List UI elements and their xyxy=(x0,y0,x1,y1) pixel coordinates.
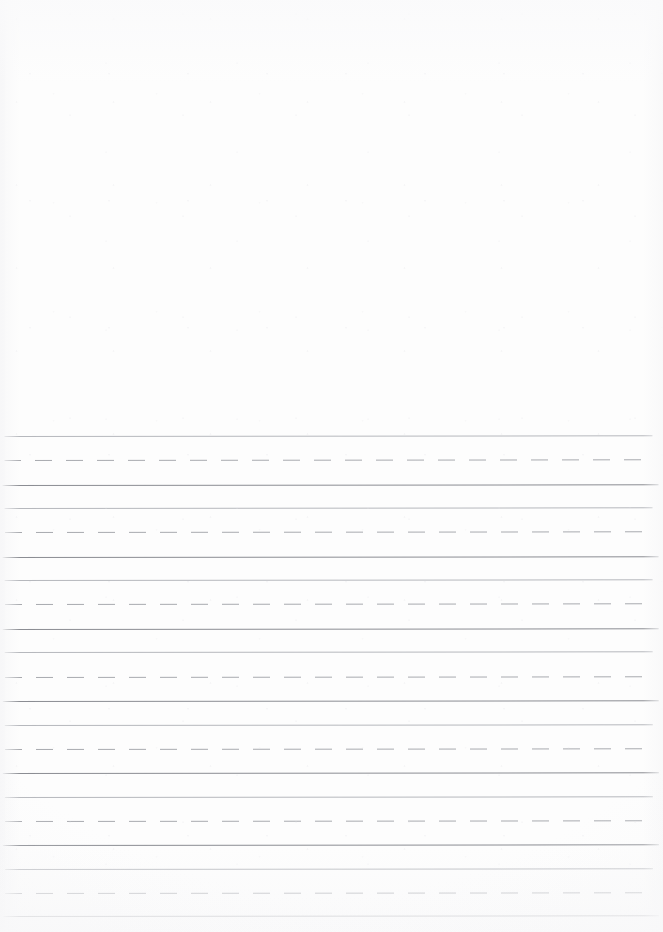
rule-line-midline xyxy=(5,892,649,894)
rule-line-headline xyxy=(5,724,653,726)
rule-line-midline xyxy=(5,531,649,533)
handwriting-paper-page xyxy=(0,0,663,932)
rule-line-container xyxy=(0,0,663,932)
rule-line-baseline xyxy=(3,484,659,486)
rule-line-baseline xyxy=(3,772,659,774)
rule-line-headline xyxy=(5,868,653,870)
rule-line-midline xyxy=(5,603,649,605)
rule-line-headline xyxy=(4,435,652,437)
rule-line-headline xyxy=(5,651,653,653)
rule-line-headline xyxy=(5,796,653,798)
rule-line-baseline xyxy=(3,915,659,917)
rule-line-baseline xyxy=(3,700,659,702)
rule-line-headline xyxy=(5,507,653,509)
rule-line-midline xyxy=(5,748,649,750)
rule-line-midline xyxy=(5,820,649,822)
rule-line-midline xyxy=(5,676,649,678)
rule-line-headline xyxy=(5,579,653,581)
ruled-writing-area[interactable] xyxy=(0,0,663,932)
rule-line-baseline xyxy=(3,628,659,630)
rule-line-midline xyxy=(4,459,648,461)
rule-line-baseline xyxy=(3,556,659,558)
rule-line-baseline xyxy=(3,844,659,846)
